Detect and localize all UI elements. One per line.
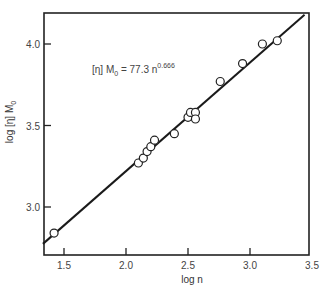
annotation-exponent: 0.666 [157, 62, 175, 69]
y-tick-label: 4.0 [26, 39, 40, 50]
x-tick-label: 1.5 [57, 260, 71, 271]
x-tick-label: 2.0 [119, 260, 133, 271]
annotation-middle: = 77.3 n [118, 64, 157, 75]
equation-annotation: [η] M0 = 77.3 n0.666 [92, 62, 175, 77]
data-point [273, 37, 281, 45]
x-tick-label: 3.0 [243, 260, 257, 271]
y-axis-label-main: log [η] M [4, 105, 15, 143]
annotation-prefix: [η] M [92, 64, 114, 75]
y-axis-label: log [η] M0 [4, 101, 17, 143]
x-axis-label: log n [181, 274, 203, 285]
data-point [191, 115, 199, 123]
data-point [50, 229, 58, 237]
y-axis-ticks: 3.03.54.0 [26, 39, 51, 213]
data-point [151, 136, 159, 144]
data-point [258, 40, 266, 48]
y-tick-label: 3.5 [26, 121, 40, 132]
y-axis-label-subscript: 0 [10, 101, 17, 105]
x-tick-label: 3.5 [305, 260, 319, 271]
intrinsic-viscosity-plot: 1.52.02.53.03.5 3.03.54.0 [η] M0 = 77.3 … [0, 0, 326, 290]
x-axis-ticks: 1.52.02.53.03.5 [57, 248, 319, 271]
data-point [216, 77, 224, 85]
data-point [170, 130, 178, 138]
y-tick-label: 3.0 [26, 202, 40, 213]
x-tick-label: 2.5 [181, 260, 195, 271]
data-point [239, 60, 247, 68]
